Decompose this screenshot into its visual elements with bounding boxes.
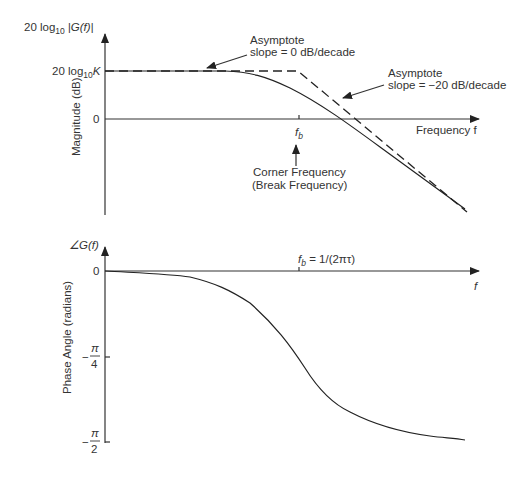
phase-fb-label: fb = 1/(2πτ) [298, 253, 355, 268]
corner-frequency-label: Corner Frequency [253, 166, 346, 178]
asymptote-slope-value: slope = −20 dB/decade [388, 79, 506, 91]
tick-label-zero-db: 0 [93, 113, 99, 125]
svg-text:−: − [82, 436, 89, 448]
tick-label-zero-rad: 0 [93, 265, 99, 277]
magnitude-xlabel: Frequency f [416, 124, 478, 136]
svg-text:2: 2 [91, 443, 97, 455]
asymptote-slope-title: Asymptote [388, 67, 442, 79]
tick-label-minus-pi-over-4: − π 4 [82, 342, 100, 370]
phase-y-title: ∠G(f) [69, 239, 99, 251]
magnitude-plot: 20 log10|G(f)| 20 log10K 0 Magnitude (dB… [24, 21, 506, 215]
fb-label: fb [295, 126, 303, 141]
phase-ylabel: Phase Angle (radians) [61, 281, 73, 394]
bode-plot-figure: 20 log10|G(f)| 20 log10K 0 Magnitude (dB… [0, 0, 515, 477]
asymptote-flat-title: Asymptote [250, 34, 304, 46]
svg-text:4: 4 [91, 358, 98, 370]
asymptote-flat-arrow [207, 55, 247, 68]
phase-xlabel: f [474, 280, 479, 292]
magnitude-ylabel: Magnitude (dB) [70, 77, 82, 156]
svg-text:−: − [82, 351, 89, 363]
tick-label-minus-pi-over-2: − π 2 [82, 427, 100, 455]
svg-text:π: π [91, 342, 99, 354]
phase-curve [105, 271, 465, 440]
svg-text:π: π [91, 427, 99, 439]
asymptote-slope-arrow [343, 85, 384, 98]
break-frequency-label: (Break Frequency) [252, 179, 347, 191]
magnitude-y-title: 20 log10|G(f)| [24, 21, 94, 36]
phase-plot: ∠G(f) 0 − π 4 − π 2 Phase Angle (radians… [61, 239, 479, 455]
asymptote-flat-slope: slope = 0 dB/decade [250, 46, 355, 58]
